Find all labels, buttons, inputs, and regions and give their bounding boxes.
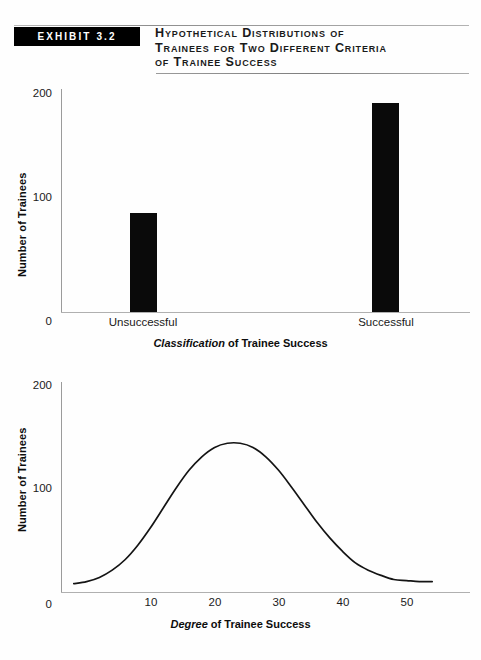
bar-chart-y-axis [61,89,62,313]
bar-chart-ytick-100: 100 [16,191,52,203]
line-chart-xtick-40: 40 [323,596,363,608]
bar-category-label-unsuccessful: Unsuccessful [83,316,203,328]
bar-chart: Number of Trainees 200 100 0 Unsuccessfu… [0,0,481,360]
line-chart-xtick-50: 50 [387,596,427,608]
line-chart-xtick-30: 30 [259,596,299,608]
bar-chart-x-axis [61,312,470,313]
exhibit-page: EXHIBIT 3.2 Hypothetical Distributions o… [0,0,481,660]
bar-chart-x-axis-label: Classification of Trainee Success [0,337,481,349]
bar-chart-x-axis-label-rest: of Trainee Success [225,337,328,349]
line-chart-x-axis-label-emphasis: Degree [170,618,207,630]
normal-distribution-curve [0,360,481,660]
bar-successful [372,103,399,312]
bar-chart-x-axis-label-emphasis: Classification [153,337,225,349]
bar-chart-ytick-0: 0 [16,315,52,327]
bar-category-label-successful: Successful [326,316,446,328]
line-chart-xtick-10: 10 [131,596,171,608]
line-chart-x-axis-label: Degree of Trainee Success [0,618,481,630]
line-chart-x-axis-label-rest: of Trainee Success [208,618,311,630]
line-chart: Number of Trainees 200 100 0 10 20 30 40… [0,360,481,660]
bar-unsuccessful [130,213,157,312]
line-chart-xtick-20: 20 [195,596,235,608]
bar-chart-ytick-200: 200 [16,87,52,99]
bar-chart-y-axis-label: Number of Trainees [16,173,28,278]
